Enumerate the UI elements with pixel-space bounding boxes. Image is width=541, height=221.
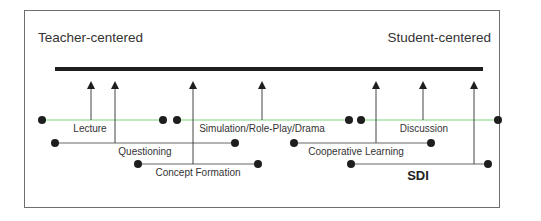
arrow-up-icon: [258, 81, 266, 89]
endpoint-dot-right: [231, 139, 239, 147]
endpoint-dot-left: [290, 139, 298, 147]
arrow-up-icon: [87, 81, 95, 89]
method-label: Lecture: [73, 123, 106, 134]
endpoint-dot-right: [427, 139, 435, 147]
method-label: Cooperative Learning: [308, 146, 404, 157]
endpoint-dot-right: [159, 116, 167, 124]
endpoint-dot-left: [173, 116, 181, 124]
endpoint-dot-right: [345, 116, 353, 124]
arrow-up-icon: [189, 81, 197, 89]
arrow-up-icon: [419, 81, 427, 89]
method-simulation-role-play-drama: [173, 81, 353, 124]
endpoint-dot-right: [254, 160, 262, 168]
arrow-up-icon: [470, 81, 478, 89]
method-cooperative-learning: [290, 81, 435, 147]
method-label: Questioning: [118, 146, 171, 157]
method-lecture: [38, 81, 167, 124]
method-label: Discussion: [400, 123, 448, 134]
continuum-diagram: [0, 0, 541, 221]
endpoint-dot-left: [357, 116, 365, 124]
arrow-up-icon: [372, 81, 380, 89]
arrow-up-icon: [111, 81, 119, 89]
method-questioning: [51, 81, 239, 147]
method-label: SDI: [407, 168, 429, 183]
method-label: Concept Formation: [155, 167, 240, 178]
endpoint-dot-left: [38, 116, 46, 124]
endpoint-dot-left: [134, 160, 142, 168]
endpoint-dot-left: [347, 160, 355, 168]
method-label: Simulation/Role-Play/Drama: [199, 123, 325, 134]
endpoint-dot-right: [484, 160, 492, 168]
endpoint-dot-left: [51, 139, 59, 147]
endpoint-dot-right: [494, 116, 502, 124]
